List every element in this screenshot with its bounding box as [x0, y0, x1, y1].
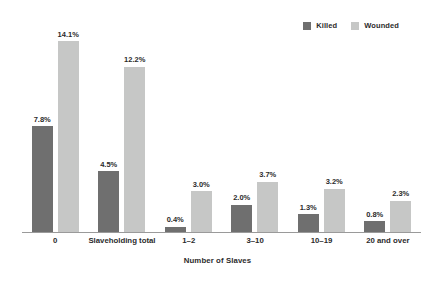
bar-rect[interactable] [98, 171, 119, 232]
bar-item[interactable]: 14.1% [58, 14, 79, 232]
bar-rect[interactable] [32, 126, 53, 232]
bar-rect[interactable] [257, 182, 278, 232]
bar-rect[interactable] [364, 221, 385, 232]
bar-item[interactable]: 3.7% [257, 14, 278, 232]
x-axis-tick-label: 0 [22, 236, 88, 245]
bar-item[interactable]: 4.5% [98, 14, 119, 232]
bar-value-label: 1.3% [300, 204, 317, 212]
x-axis-tick-label: 20 and over [355, 236, 421, 245]
bar-rect[interactable] [390, 201, 411, 232]
bar-value-label: 3.0% [193, 181, 210, 189]
bar-item[interactable]: 3.2% [324, 14, 345, 232]
bar-rect[interactable] [231, 205, 252, 232]
bar-value-label: 7.8% [34, 116, 51, 124]
x-axis-tick-labels: 0Slaveholding total1–23–1010–1920 and ov… [22, 236, 421, 245]
bar-item[interactable]: 0.8% [364, 14, 385, 232]
bar-group: 0.8%2.3% [355, 14, 422, 232]
bar-item[interactable]: 1.3% [298, 14, 319, 232]
bar-item[interactable]: 2.0% [231, 14, 252, 232]
bar-value-label: 2.0% [233, 194, 250, 202]
bar-rect[interactable] [298, 214, 319, 232]
bar-value-label: 4.5% [100, 161, 117, 169]
bar-group: 4.5%12.2% [89, 14, 156, 232]
bar-groups: 7.8%14.1%4.5%12.2%0.4%3.0%2.0%3.7%1.3%3.… [22, 14, 421, 232]
x-axis-tick-label: 1–2 [156, 236, 222, 245]
bar-value-label: 3.2% [326, 178, 343, 186]
x-axis-tick-label: 10–19 [288, 236, 354, 245]
x-axis-line [22, 232, 421, 233]
plot-area: 7.8%14.1%4.5%12.2%0.4%3.0%2.0%3.7%1.3%3.… [22, 14, 421, 232]
bar-rect[interactable] [58, 41, 79, 232]
bar-value-label: 3.7% [259, 171, 276, 179]
bar-rect[interactable] [124, 67, 145, 232]
bar-item[interactable]: 2.3% [390, 14, 411, 232]
bar-group: 2.0%3.7% [222, 14, 289, 232]
bar-item[interactable]: 7.8% [32, 14, 53, 232]
x-axis-title: Number of Slaves [0, 256, 435, 265]
bar-value-label: 12.2% [124, 56, 145, 64]
bar-value-label: 0.8% [366, 211, 383, 219]
bar-chart: Killed Wounded 7.8%14.1%4.5%12.2%0.4%3.0… [0, 0, 435, 281]
bar-value-label: 0.4% [167, 216, 184, 224]
bar-value-label: 14.1% [58, 31, 79, 39]
bar-group: 7.8%14.1% [22, 14, 89, 232]
bar-item[interactable]: 0.4% [165, 14, 186, 232]
bar-group: 1.3%3.2% [288, 14, 355, 232]
bar-group: 0.4%3.0% [155, 14, 222, 232]
x-axis-tick-label: Slaveholding total [88, 236, 155, 245]
bar-rect[interactable] [324, 189, 345, 232]
bar-value-label: 2.3% [392, 190, 409, 198]
bar-item[interactable]: 3.0% [191, 14, 212, 232]
bar-rect[interactable] [191, 191, 212, 232]
x-axis-tick-label: 3–10 [222, 236, 288, 245]
bar-item[interactable]: 12.2% [124, 14, 145, 232]
